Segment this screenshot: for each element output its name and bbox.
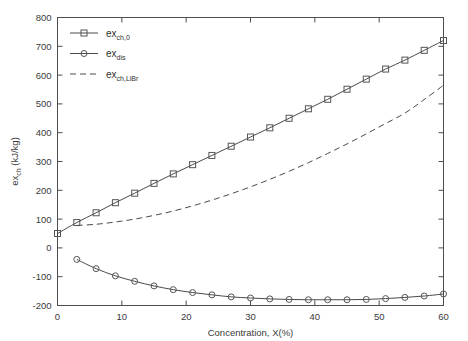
y-tick-label: 700 <box>36 41 52 52</box>
y-tick-label: -100 <box>32 271 51 282</box>
y-tick-label: 400 <box>36 127 52 138</box>
x-tick-label: 30 <box>245 311 256 322</box>
y-tick-label: 600 <box>36 70 52 81</box>
x-tick-label: 50 <box>374 311 385 322</box>
legend-label-subscript: ch,0 <box>117 34 130 41</box>
y-tick-label: 300 <box>36 156 52 167</box>
y-axis-title-unit: (kJ/kg) <box>9 137 20 168</box>
legend-label-base: ex <box>106 69 117 80</box>
x-axis-title: Concentration, X(%) <box>208 327 294 338</box>
legend-label-base: ex <box>106 48 117 59</box>
chart-figure: 0102030405060 -200-100010020030040050060… <box>0 0 468 341</box>
exergy-concentration-chart: 0102030405060 -200-100010020030040050060… <box>0 0 468 341</box>
x-tick-label: 60 <box>438 311 449 322</box>
y-axis-title-base: ex <box>9 176 20 186</box>
x-tick-label: 0 <box>55 311 60 322</box>
legend-label-base: ex <box>106 28 117 39</box>
y-axis-title-subscript: ch <box>15 168 22 176</box>
x-tick-label: 10 <box>117 311 128 322</box>
x-tick-label: 40 <box>310 311 321 322</box>
y-tick-label: 100 <box>36 214 52 225</box>
y-tick-label: 500 <box>36 98 52 109</box>
legend-label-subscript: dis <box>117 54 126 61</box>
x-tick-label: 20 <box>181 311 192 322</box>
chart-background <box>0 0 468 341</box>
y-tick-label: -200 <box>32 300 51 311</box>
y-tick-label: 200 <box>36 185 52 196</box>
legend-label-subscript: ch,LiBr <box>117 75 139 82</box>
y-tick-label: 0 <box>46 242 51 253</box>
y-tick-label: 800 <box>36 12 52 23</box>
